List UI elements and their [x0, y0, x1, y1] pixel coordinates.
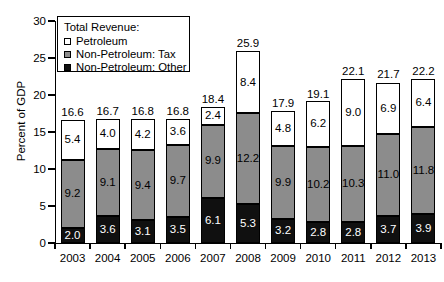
x-axis-tick-label: 2012: [376, 252, 402, 264]
x-axis-tick-label: 2011: [341, 252, 366, 264]
y-axis-tick: [48, 168, 55, 169]
bar-segment-petroleum: 6.9: [376, 83, 400, 134]
x-axis-tick: [265, 243, 266, 249]
bar-segment-value: 4.0: [100, 128, 116, 140]
bar-segment-petroleum: 3.6: [166, 119, 190, 146]
x-axis-tick: [54, 243, 55, 249]
bar-segment-value: 6.9: [380, 103, 396, 115]
x-axis-tick: [405, 243, 406, 249]
x-axis-tick-label: 2004: [95, 252, 121, 264]
bar-segment-value: 6.4: [415, 97, 431, 109]
y-axis-tick: [48, 20, 55, 21]
x-axis-tick-label: 2010: [305, 252, 331, 264]
bar-2013: 3.911.86.422.2: [411, 79, 435, 243]
bar-segment-tax: 12.2: [236, 113, 260, 203]
legend-swatch-other: [64, 64, 71, 71]
y-axis-tick-label: 15: [0, 126, 46, 138]
bar-2011: 2.810.39.022.1: [341, 79, 365, 243]
bar-segment-other: 3.5: [166, 217, 190, 243]
legend-label: Non-Petroleum: Other: [76, 61, 187, 74]
legend-item: Non-Petroleum: Tax: [64, 48, 189, 61]
bar-total-label: 16.7: [96, 105, 120, 117]
bar-segment-value: 9.9: [275, 177, 291, 189]
bar-segment-other: 2.8: [341, 222, 365, 243]
bar-segment-value: 4.8: [275, 123, 291, 135]
bar-total-label: 16.8: [131, 105, 155, 117]
bar-segment-value: 9.2: [65, 188, 81, 200]
bar-segment-tax: 11.8: [411, 127, 435, 214]
stacked-bar-chart: Percent of GDP 051015202530 2.09.25.416.…: [0, 0, 444, 282]
y-axis-tick-label: 25: [0, 52, 46, 64]
bar-segment-value: 5.3: [240, 218, 256, 230]
bar-2006: 3.59.73.616.8: [166, 119, 190, 243]
bar-segment-tax: 9.1: [96, 149, 120, 216]
y-axis-tick: [48, 57, 55, 58]
chart-legend: Total Revenue: PetroleumNon-Petroleum: T…: [57, 16, 190, 72]
bar-segment-petroleum: 6.2: [306, 101, 330, 147]
bar-total-label: 22.2: [411, 65, 435, 77]
y-axis-tick-label: 0: [0, 237, 46, 249]
bar-segment-other: 3.9: [411, 214, 435, 243]
y-axis-tick-label: 20: [0, 89, 46, 101]
bar-2010: 2.810.26.219.1: [306, 102, 330, 243]
x-axis-tick-label: 2005: [130, 252, 156, 264]
x-axis-tick-label: 2007: [200, 252, 226, 264]
bar-segment-value: 4.2: [135, 129, 151, 141]
bar-segment-petroleum: 2.4: [201, 107, 225, 125]
x-axis-tick: [370, 243, 371, 249]
bar-segment-other: 2.0: [61, 228, 85, 243]
y-axis-tick: [48, 205, 55, 206]
bar-segment-value: 3.6: [170, 126, 186, 138]
bar-segment-value: 3.1: [135, 226, 151, 238]
bar-total-label: 17.9: [271, 97, 295, 109]
bar-2007: 6.19.92.418.4: [201, 107, 225, 243]
y-axis-tick-label: 10: [0, 163, 46, 175]
bar-total-label: 25.9: [236, 37, 260, 49]
bar-segment-other: 3.6: [96, 216, 120, 243]
bar-segment-petroleum: 4.0: [96, 119, 120, 149]
bar-segment-tax: 11.0: [376, 134, 400, 215]
bar-segment-other: 2.8: [306, 222, 330, 243]
x-axis-tick: [300, 243, 301, 249]
legend-swatch-tax: [64, 51, 71, 58]
x-axis-tick: [124, 243, 125, 249]
bar-2009: 3.29.94.817.9: [271, 111, 295, 243]
bar-2012: 3.711.06.921.7: [376, 82, 400, 243]
x-axis-tick: [195, 243, 196, 249]
y-axis-tick: [48, 94, 55, 95]
bar-segment-value: 3.9: [415, 223, 431, 235]
bar-segment-petroleum: 4.8: [271, 111, 295, 147]
legend-item: Petroleum: [64, 35, 189, 48]
bar-total-label: 19.1: [306, 88, 330, 100]
bar-segment-value: 2.8: [345, 227, 361, 239]
bar-segment-value: 8.4: [240, 77, 256, 89]
x-axis-tick: [335, 243, 336, 249]
bar-total-label: 16.8: [166, 105, 190, 117]
bar-segment-value: 2.8: [310, 227, 326, 239]
bar-segment-petroleum: 9.0: [341, 79, 365, 146]
x-axis-tick: [230, 243, 231, 249]
bar-segment-value: 2.4: [205, 110, 221, 122]
legend-title: Total Revenue:: [64, 21, 189, 34]
bar-segment-tax: 9.9: [271, 146, 295, 219]
bar-segment-petroleum: 5.4: [61, 120, 85, 160]
bar-2008: 5.312.28.425.9: [236, 51, 260, 243]
bar-segment-tax: 9.7: [166, 145, 190, 217]
x-axis-tick: [89, 243, 90, 249]
x-axis-line: [55, 243, 441, 244]
bar-segment-value: 11.8: [413, 165, 435, 177]
x-axis-tick-label: 2013: [411, 252, 437, 264]
bar-total-label: 16.6: [61, 106, 85, 118]
bar-segment-other: 3.2: [271, 219, 295, 243]
bar-segment-other: 3.7: [376, 216, 400, 243]
bar-segment-value: 3.6: [100, 224, 116, 236]
bar-segment-other: 5.3: [236, 204, 260, 243]
bar-segment-value: 5.4: [65, 134, 81, 146]
bar-total-label: 21.7: [376, 68, 400, 80]
legend-item: Non-Petroleum: Other: [64, 61, 189, 74]
bar-segment-value: 6.1: [205, 215, 221, 227]
bar-segment-tax: 10.3: [341, 146, 365, 222]
bar-segment-other: 6.1: [201, 198, 225, 243]
bar-segment-value: 9.1: [100, 177, 116, 189]
legend-items: PetroleumNon-Petroleum: TaxNon-Petroleum…: [64, 35, 189, 74]
